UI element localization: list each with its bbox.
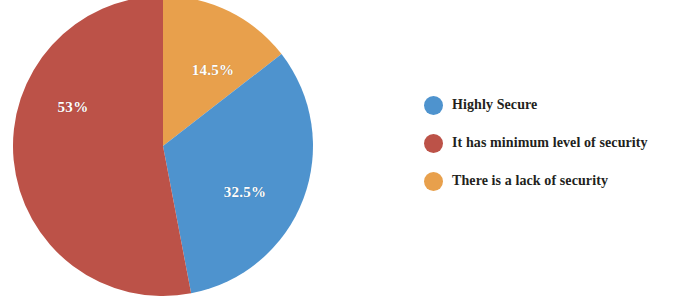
legend-swatch-minimum-security-icon: [424, 134, 443, 153]
legend-label-minimum-security: It has minimum level of security: [452, 135, 648, 151]
legend-swatch-lack-of-security-icon: [424, 172, 443, 191]
pie-chart-area: 14.5% 32.5% 53%: [0, 0, 340, 304]
legend-label-lack-of-security: There is a lack of security: [452, 173, 608, 189]
chart-legend: Highly Secure It has minimum level of se…: [424, 86, 678, 200]
pie-label-minimum-security: 53%: [58, 99, 89, 116]
pie-label-highly-secure: 32.5%: [224, 184, 267, 201]
legend-label-highly-secure: Highly Secure: [452, 97, 537, 113]
pie-chart-figure: 14.5% 32.5% 53% Highly Secure It has min…: [0, 0, 678, 304]
legend-item-minimum-security: It has minimum level of security: [424, 124, 678, 162]
legend-item-highly-secure: Highly Secure: [424, 86, 678, 124]
pie-label-lack-of-security: 14.5%: [192, 62, 235, 79]
legend-item-lack-of-security: There is a lack of security: [424, 162, 678, 200]
pie-chart-svg: [0, 0, 340, 304]
legend-swatch-highly-secure-icon: [424, 96, 443, 115]
